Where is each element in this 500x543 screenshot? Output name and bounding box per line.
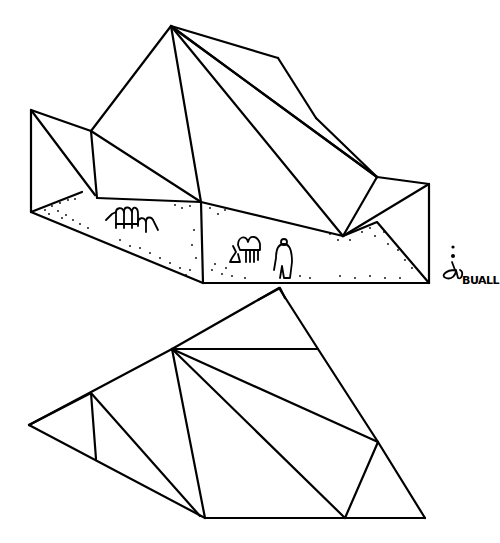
artist-signature: BUALL <box>444 245 500 287</box>
signature-text: BUALL <box>462 274 500 287</box>
people-group-middle <box>230 237 292 278</box>
plan-view <box>29 288 425 518</box>
people-group-left <box>106 208 158 233</box>
sketch-canvas: BUALL <box>0 0 500 543</box>
perspective-view <box>31 26 429 300</box>
